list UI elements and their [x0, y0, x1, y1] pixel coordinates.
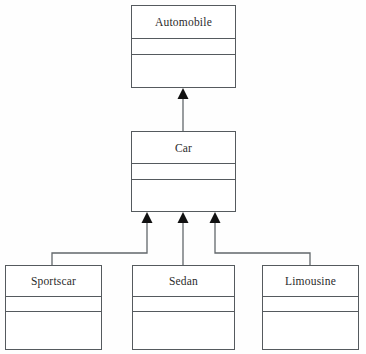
class-name-car: Car	[132, 132, 235, 164]
class-attributes-sedan	[133, 297, 234, 312]
class-box-sedan[interactable]: Sedan	[132, 265, 235, 350]
class-attributes-car	[132, 164, 235, 180]
class-operations-sedan	[133, 312, 234, 349]
class-operations-sportscar	[6, 312, 101, 349]
generalization-sedan-to-car	[178, 212, 189, 265]
class-attributes-sportscar	[6, 297, 101, 312]
generalization-sportscar-to-car	[52, 212, 153, 265]
class-name-automobile: Automobile	[132, 6, 235, 39]
inheritance-triangle-icon	[142, 212, 153, 223]
class-operations-car	[132, 180, 235, 211]
generalization-line	[52, 221, 147, 265]
uml-class-diagram-canvas: Automobile Car Sportscar Sedan Limousine	[0, 0, 366, 354]
inheritance-triangle-icon	[178, 88, 189, 99]
class-box-car[interactable]: Car	[131, 131, 236, 212]
class-attributes-automobile	[132, 39, 235, 55]
class-box-automobile[interactable]: Automobile	[131, 5, 236, 88]
generalization-limousine-to-car	[210, 212, 311, 265]
inheritance-triangle-icon	[210, 212, 221, 223]
class-box-sportscar[interactable]: Sportscar	[5, 265, 102, 350]
generalization-car-to-automobile	[178, 88, 189, 131]
class-name-limousine: Limousine	[263, 266, 358, 297]
class-attributes-limousine	[263, 297, 358, 312]
class-operations-limousine	[263, 312, 358, 349]
class-name-sportscar: Sportscar	[6, 266, 101, 297]
inheritance-triangle-icon	[178, 212, 189, 223]
class-operations-automobile	[132, 55, 235, 87]
class-box-limousine[interactable]: Limousine	[262, 265, 359, 350]
class-name-sedan: Sedan	[133, 266, 234, 297]
generalization-line	[215, 221, 310, 265]
